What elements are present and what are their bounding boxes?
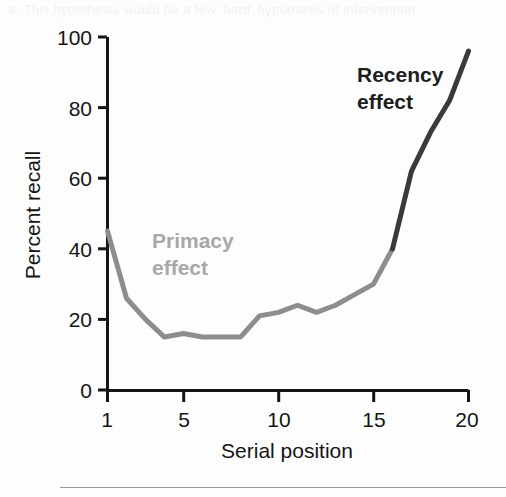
- y-axis-title: Percent recall: [21, 151, 44, 279]
- annotation-primacy-line1: Primacy: [152, 229, 234, 252]
- y-tick-label-80: 80: [69, 97, 92, 120]
- annotation-recency-effect: Recency effect: [357, 63, 444, 113]
- annotation-recency-line2: effect: [357, 90, 413, 113]
- x-axis-title: Serial position: [221, 439, 353, 462]
- y-tick-label-20: 20: [69, 308, 92, 331]
- x-tick-label-20: 20: [455, 408, 478, 431]
- annotation-recency-line1: Recency: [357, 63, 444, 86]
- annotation-primacy-line2: effect: [152, 256, 208, 279]
- x-tick-label-15: 15: [362, 408, 385, 431]
- y-tick-label-100: 100: [57, 26, 92, 49]
- serial-position-curve-figure: a. This hypothesis would be a few 'hard'…: [0, 0, 506, 497]
- y-axis-ticks: [98, 37, 107, 390]
- x-tick-label-5: 5: [178, 408, 190, 431]
- y-tick-label-60: 60: [69, 167, 92, 190]
- page-bottom-rule: [60, 487, 506, 488]
- x-tick-label-10: 10: [267, 408, 290, 431]
- chart-plot-area: 100 80 60 40 20 0 1 5 10 15 20 Serial po…: [0, 0, 506, 497]
- y-tick-label-0: 0: [80, 379, 92, 402]
- data-line-primacy: [108, 231, 393, 337]
- annotation-primacy-effect: Primacy effect: [152, 229, 234, 279]
- x-tick-label-1: 1: [101, 408, 113, 431]
- y-tick-label-40: 40: [69, 238, 92, 261]
